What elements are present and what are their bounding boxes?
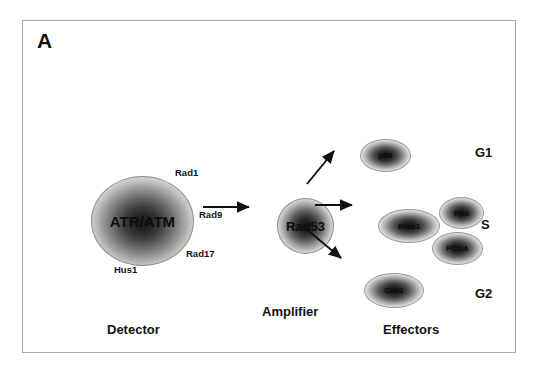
- panel-letter: A: [37, 29, 52, 53]
- effector-node-brca1: Brca1: [378, 209, 440, 243]
- figure-panel: A ATR/ATM Rad1 Rad9 Rad17 Hus1 Rad53 p53…: [22, 20, 516, 353]
- effector-node-rpa: Rpa: [439, 197, 484, 229]
- amplifier-node-rad53: Rad53: [277, 198, 334, 254]
- effector-label-pcna: PCNA: [433, 233, 482, 264]
- detector-node-atr-atm: ATR/ATM: [91, 176, 194, 266]
- detector-satellite-label-rad1: Rad1: [175, 167, 198, 178]
- effector-label-rpa: Rpa: [440, 198, 483, 228]
- effector-label-brca1: Brca1: [379, 210, 439, 242]
- amplifier-node-label: Rad53: [278, 199, 333, 253]
- effector-node-pcna: PCNA: [432, 232, 483, 265]
- section-caption-amplifier: Amplifier: [262, 304, 318, 319]
- detector-satellite-label-rad9: Rad9: [199, 209, 222, 220]
- phase-label-g2: G2: [475, 286, 492, 301]
- phase-label-g1: G1: [475, 145, 492, 160]
- detector-satellite-label-rad17: Rad17: [186, 248, 215, 259]
- effector-label-chk1: Chk1: [365, 274, 423, 307]
- effector-node-chk1: Chk1: [364, 273, 424, 308]
- section-caption-effectors: Effectors: [383, 322, 439, 337]
- phase-label-s: S: [481, 217, 490, 232]
- effector-node-p53: p53: [360, 139, 411, 172]
- detector-node-label: ATR/ATM: [92, 177, 193, 265]
- section-caption-detector: Detector: [107, 322, 160, 337]
- effector-label-p53: p53: [361, 140, 410, 171]
- detector-satellite-label-hus1: Hus1: [114, 264, 137, 275]
